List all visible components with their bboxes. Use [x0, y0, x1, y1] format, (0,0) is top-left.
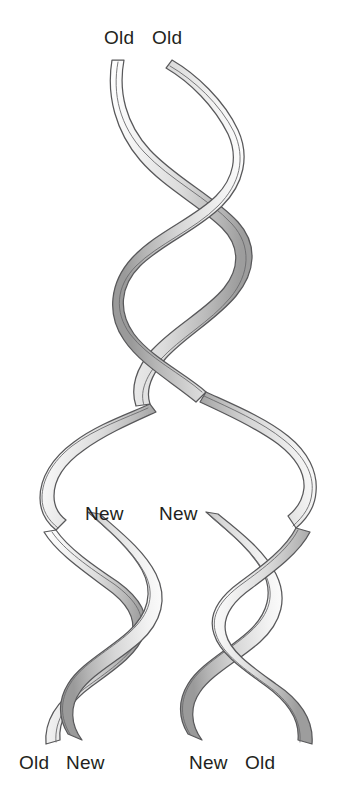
label-old-daughter-right-outer: Old [245, 753, 275, 772]
label-new-daughter-left-inner: New [66, 753, 105, 772]
daughter-left-strand-new [61, 512, 163, 740]
daughter-right-strand-new [181, 512, 283, 740]
label-old-parent-right: Old [152, 28, 182, 47]
label-new-daughter-right-inner: New [189, 753, 228, 772]
label-new-fork-right: New [159, 504, 198, 523]
dna-replication-illustration [0, 0, 345, 787]
label-new-fork-left: New [85, 504, 124, 523]
label-old-daughter-left-outer: Old [19, 753, 49, 772]
fork-branch-right [200, 392, 316, 528]
label-old-parent-left: Old [104, 28, 134, 47]
dna-replication-figure: Old Old New New Old New New Old [0, 0, 345, 787]
